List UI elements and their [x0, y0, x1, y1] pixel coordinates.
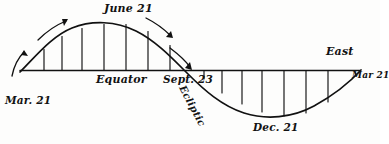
label-east: East — [326, 46, 354, 57]
hatch-group-upper — [44, 25, 170, 71]
label-march-equinox-right: Mar 21 — [352, 71, 389, 80]
arrow-head — [185, 62, 192, 70]
label-march-equinox-left: Mar. 21 — [5, 95, 51, 106]
arrow-head — [21, 50, 28, 56]
label-equator: Equator — [96, 74, 147, 85]
label-september-equinox: Sept. 23 — [163, 74, 213, 85]
label-december-solstice: Dec. 21 — [253, 122, 299, 133]
label-june-solstice: June 21 — [104, 3, 153, 14]
arrow-descending-upper — [146, 18, 173, 38]
arrow-ascending-upper — [38, 19, 68, 40]
